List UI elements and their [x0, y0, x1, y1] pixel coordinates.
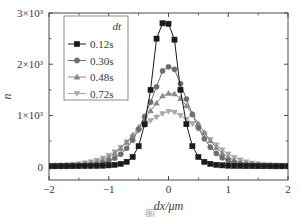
marker-square: [273, 164, 278, 169]
marker-square: [267, 164, 272, 169]
marker-circle: [112, 156, 117, 161]
marker-circle: [118, 152, 123, 157]
marker-square: [184, 122, 189, 127]
legend-title: dt: [112, 20, 122, 32]
marker-circle: [190, 112, 195, 117]
y-axis-title-group: n: [0, 94, 14, 100]
marker-square: [214, 162, 219, 167]
marker-square: [160, 21, 165, 26]
marker-circle: [154, 84, 159, 89]
y-axis-title: n: [0, 94, 14, 100]
x-axis-tick-label: 2: [285, 183, 291, 195]
marker-square: [74, 41, 79, 46]
x-axis-tick-label: −1: [103, 183, 115, 195]
marker-square: [136, 144, 141, 149]
legend: dt0.12s0.30s0.48s0.72s: [64, 16, 128, 100]
marker-square: [232, 163, 237, 168]
marker-circle: [226, 158, 231, 163]
marker-square: [52, 164, 57, 169]
marker-circle: [208, 145, 213, 150]
marker-square: [124, 159, 129, 164]
marker-square: [285, 164, 290, 169]
marker-square: [94, 163, 99, 168]
marker-square: [250, 164, 255, 169]
marker-square: [148, 87, 153, 92]
marker-square: [64, 164, 69, 169]
legend-label-3: 0.72s: [90, 88, 114, 100]
marker-square: [262, 164, 267, 169]
marker-square: [106, 163, 111, 168]
marker-square: [256, 164, 261, 169]
marker-circle: [220, 155, 225, 160]
marker-circle: [166, 64, 171, 69]
marker-square: [172, 37, 177, 42]
marker-circle: [136, 127, 141, 132]
marker-circle: [178, 81, 183, 86]
x-axis-tick-label: −2: [43, 183, 55, 195]
x-axis-tick-label: 1: [226, 183, 232, 195]
marker-square: [279, 164, 284, 169]
marker-square: [46, 164, 51, 169]
marker-square: [82, 163, 87, 168]
marker-square: [196, 154, 201, 159]
marker-square: [208, 161, 213, 166]
marker-square: [202, 159, 207, 164]
y-axis-tick-label: 2×10³: [17, 58, 44, 70]
marker-square: [226, 163, 231, 168]
x-axis-tick-label: 0: [166, 183, 172, 195]
marker-square: [70, 164, 75, 169]
marker-square: [244, 163, 249, 168]
marker-circle: [130, 137, 135, 142]
marker-square: [178, 87, 183, 92]
marker-square: [154, 36, 159, 41]
marker-square: [112, 162, 117, 167]
y-axis-tick-label: 0: [38, 161, 44, 173]
marker-square: [190, 144, 195, 149]
marker-circle: [124, 146, 129, 151]
marker-square: [220, 163, 225, 168]
y-axis-tick-label-group: 3×10³: [17, 7, 44, 19]
marker-square: [130, 154, 135, 159]
marker-square: [58, 164, 63, 169]
marker-circle: [202, 136, 207, 141]
legend-label-1: 0.30s: [90, 55, 114, 67]
marker-square: [142, 122, 147, 127]
legend-label-2: 0.48s: [90, 71, 114, 83]
marker-square: [166, 21, 171, 26]
legend-label-0: 0.12s: [90, 38, 114, 50]
y-axis-tick-label-group: 0: [38, 161, 44, 173]
figure-container: −2−101201×10³2×10³3×10³dx/μmndt0.12s0.30…: [0, 0, 300, 217]
marker-circle: [214, 151, 219, 156]
y-axis-tick-label-group: 2×10³: [17, 58, 44, 70]
marker-circle: [196, 125, 201, 130]
marker-square: [238, 163, 243, 168]
marker-circle: [74, 58, 79, 63]
line-chart: −2−101201×10³2×10³3×10³dx/μmndt0.12s0.30…: [0, 0, 300, 217]
y-axis-tick-label: 3×10³: [17, 7, 44, 19]
marker-square: [118, 161, 123, 166]
y-axis-tick-label: 1×10³: [17, 109, 44, 121]
marker-circle: [160, 68, 165, 73]
y-axis-tick-label-group: 1×10³: [17, 109, 44, 121]
marker-circle: [172, 67, 177, 72]
marker-square: [76, 164, 81, 169]
marker-square: [100, 163, 105, 168]
marker-circle: [184, 96, 189, 101]
marker-square: [88, 163, 93, 168]
figure-caption: 图: [0, 206, 300, 217]
